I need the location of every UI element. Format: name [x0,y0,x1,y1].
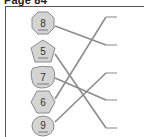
item-8[interactable]: 8 [32,12,54,34]
item-5[interactable]: 5 [31,40,55,62]
item-7-label: 7 [40,72,46,83]
item-8-label: 8 [40,18,46,29]
item-9-label: 9 [40,120,46,131]
item-6-label: 6 [40,97,46,108]
line-5-to-5[interactable] [55,54,106,128]
connection-lines [55,17,106,128]
item-9[interactable]: 9 [32,116,54,136]
matching-canvas: 8 5 7 6 9 [0,0,144,137]
right-endpoints [106,17,117,128]
item-5-label: 5 [40,46,46,57]
left-shapes: 8 5 7 6 9 [31,12,55,136]
item-6[interactable]: 6 [31,91,55,113]
item-7[interactable]: 7 [31,66,54,88]
